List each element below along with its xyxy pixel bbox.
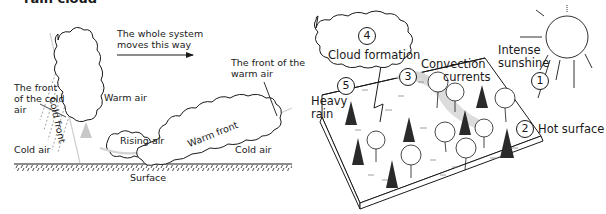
surface-label: Surface: [130, 172, 166, 183]
system-motion-label: The whole system moves this way: [117, 28, 203, 50]
front-diagram-drawing: [0, 0, 606, 214]
convection-currents-label: Convection currents: [421, 58, 490, 84]
rising-air-label: Rising air: [120, 135, 164, 146]
step-3-badge: 3: [399, 68, 417, 86]
hot-surface-label: Hot surface: [538, 123, 604, 136]
step-1-badge: 1: [531, 72, 549, 90]
intense-sunshine-label: Intense sunshine: [498, 44, 549, 70]
front-of-warm-air-label: The front of the warm air: [231, 57, 305, 79]
cold-air-right-label: Cold air: [235, 144, 272, 155]
cloud-formation-label: Cloud formation: [328, 49, 420, 62]
step-5-badge: 5: [337, 77, 355, 95]
step-4-badge: 4: [358, 27, 376, 45]
warm-air-label: Warm air: [104, 92, 147, 103]
cold-air-left-label: Cold air: [14, 144, 51, 155]
heavy-rain-label: Heavy rain: [311, 95, 347, 121]
step-2-badge: 2: [516, 120, 534, 138]
diagram-canvas: rain cloud: [0, 0, 606, 214]
